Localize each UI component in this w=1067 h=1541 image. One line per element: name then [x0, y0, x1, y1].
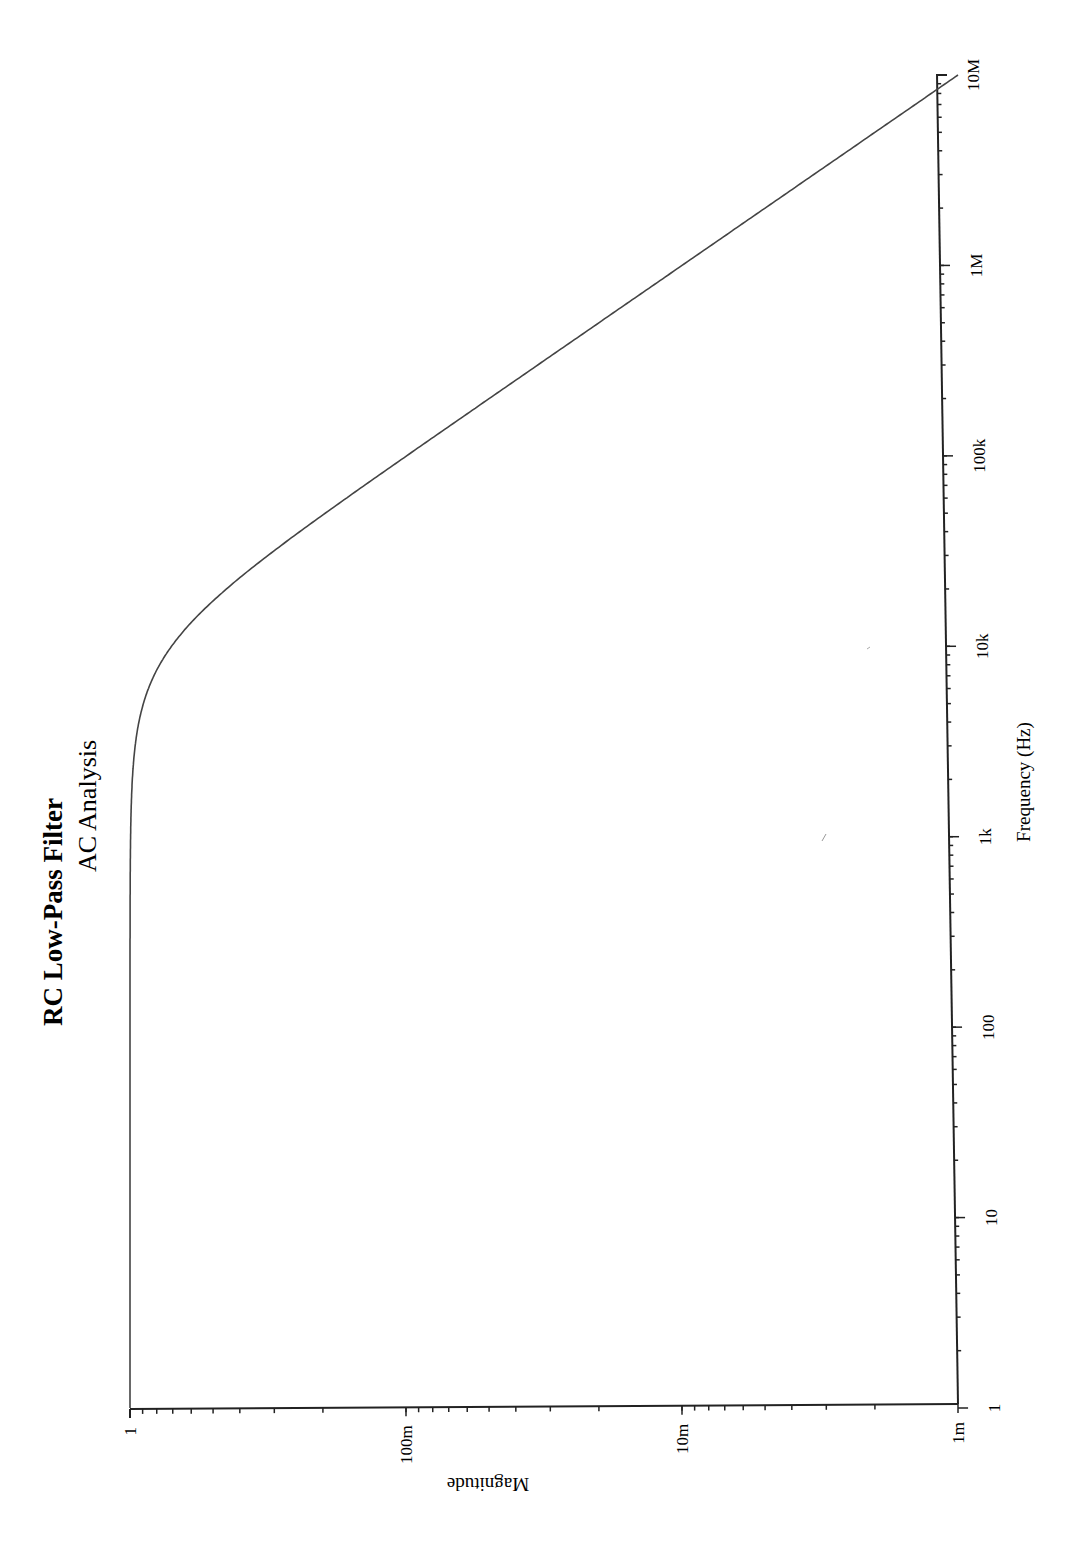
- magnitude-tick-label: 10m: [673, 1424, 692, 1454]
- magnitude-tick-labels: 1100m10m1m: [121, 1422, 968, 1464]
- bode-magnitude-chart: 1100m10m1m 1101001k10k100k1M10M RC Low-P…: [0, 0, 1067, 1541]
- magnitude-response-curve: [130, 75, 958, 1408]
- frequency-tick-label: 100: [979, 1014, 998, 1040]
- magnitude-tick-label: 1: [121, 1427, 140, 1436]
- frequency-axis-line: [937, 74, 958, 1404]
- frequency-tick-label: 100k: [970, 438, 989, 473]
- magnitude-axis-line: [130, 1404, 958, 1409]
- x-axis-label: Frequency (Hz): [1013, 722, 1035, 842]
- scan-artifact-mark: [822, 834, 826, 841]
- chart-subtitle: AC Analysis: [73, 740, 102, 872]
- chart-title: RC Low-Pass Filter: [38, 798, 68, 1026]
- frequency-tick-label: 10: [982, 1209, 1001, 1226]
- axes: [130, 74, 958, 1418]
- frequency-tick-label: 10k: [973, 633, 992, 659]
- magnitude-tick-label: 100m: [397, 1425, 416, 1464]
- frequency-tick-label: 1k: [976, 828, 995, 846]
- frequency-tick-labels: 1101001k10k100k1M10M: [964, 59, 1004, 1412]
- frequency-tick-label: 10M: [964, 59, 983, 91]
- frequency-tick-label: 1: [985, 1404, 1004, 1413]
- magnitude-tick-label: 1m: [949, 1422, 968, 1444]
- frequency-axis-ticks: [937, 75, 968, 1408]
- y-axis-label: Magnitude: [447, 1474, 529, 1495]
- frequency-tick-label: 1M: [967, 254, 986, 278]
- scan-artifact-mark: [867, 647, 870, 649]
